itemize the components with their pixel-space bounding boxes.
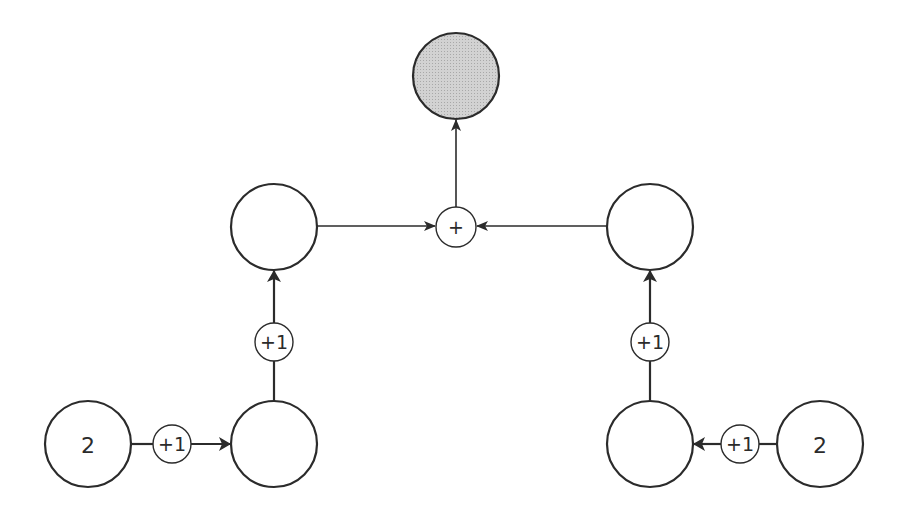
operator-label: +1 <box>726 433 754 455</box>
node-bottom-left-input: 2 <box>45 401 131 487</box>
node-bottom-right-input: 2 <box>777 401 863 487</box>
operator-inc-left-vertical: +1 <box>255 323 293 361</box>
node-mid-right <box>607 184 693 270</box>
operator-label: +1 <box>158 433 186 455</box>
computation-graph: 2 2 + +1 +1 +1 +1 <box>0 0 912 520</box>
node-bottom-left-inner <box>231 401 317 487</box>
operator-inc-right-vertical: +1 <box>631 323 669 361</box>
operator-sum: + <box>436 207 476 247</box>
node-label: 2 <box>813 433 827 458</box>
node-output <box>413 33 499 119</box>
edges <box>131 120 777 444</box>
node-mid-left <box>231 184 317 270</box>
operator-inc-right-horizontal: +1 <box>721 425 759 463</box>
operator-inc-left-horizontal: +1 <box>153 425 191 463</box>
operator-label: +1 <box>636 331 664 353</box>
node-bottom-right-inner <box>607 401 693 487</box>
operator-label: +1 <box>260 331 288 353</box>
operator-label: + <box>448 216 464 238</box>
node-label: 2 <box>81 433 95 458</box>
